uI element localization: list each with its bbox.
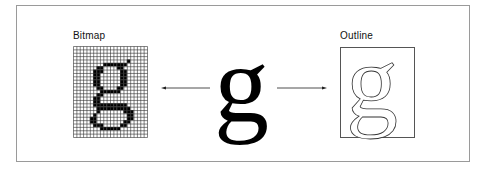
arrow-left <box>161 87 210 90</box>
arrows <box>0 0 487 170</box>
arrow-right <box>277 87 327 90</box>
